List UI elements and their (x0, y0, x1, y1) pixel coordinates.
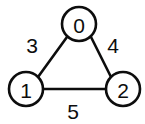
edge-weight-1-2: 5 (67, 100, 79, 123)
weighted-graph-figure: 3 4 5 0 1 2 (0, 0, 145, 124)
node-label-2: 2 (117, 79, 129, 102)
edge-weight-0-1: 3 (26, 34, 38, 57)
edge-0-1 (38, 37, 67, 77)
edge-group (38, 37, 111, 89)
node-group: 0 1 2 (9, 7, 140, 106)
node-label-1: 1 (20, 79, 32, 102)
edge-weight-0-2: 4 (107, 34, 119, 57)
graph-canvas: 3 4 5 0 1 2 (0, 0, 145, 124)
node-label-0: 0 (73, 14, 85, 37)
